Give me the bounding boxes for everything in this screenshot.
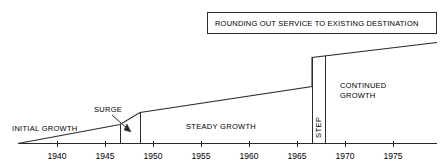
x-tick-label: 1955 (192, 151, 211, 161)
x-tick-label: 1940 (48, 151, 67, 161)
surge-arrowhead (124, 124, 131, 132)
step-label: STEP (314, 116, 323, 138)
x-tick-label: 1960 (240, 151, 259, 161)
continued-growth-label-line1: CONTINUED (340, 81, 386, 91)
initial-growth-label: INITIAL GROWTH (12, 124, 78, 133)
callout-box-label: ROUNDING OUT SERVICE TO EXISTING DESTINA… (215, 19, 419, 29)
x-tick-label: 1945 (96, 151, 115, 161)
surge-label: SURGE (94, 105, 122, 114)
continued-growth-label-line2: GROWTH (340, 91, 375, 101)
steady-growth-label: STEADY GROWTH (186, 122, 256, 131)
x-tick-label: 1970 (336, 151, 355, 161)
surge-leader (112, 115, 131, 132)
x-tick-label: 1950 (144, 151, 163, 161)
growth-phase-diagram: ROUNDING OUT SERVICE TO EXISTING DESTINA… (0, 0, 441, 168)
x-tick-label: 1975 (384, 151, 403, 161)
x-tick-label: 1965 (288, 151, 307, 161)
surge-boundaries (121, 113, 141, 144)
